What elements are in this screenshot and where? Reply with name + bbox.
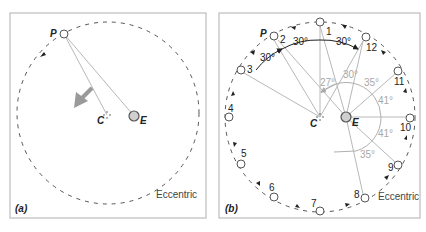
position-number: 10 xyxy=(400,122,412,133)
planet-position-6 xyxy=(270,193,278,201)
planet-position-9 xyxy=(394,161,402,169)
position-number: 7 xyxy=(311,198,317,209)
angle-label: 30° xyxy=(336,36,351,47)
angle-label: 35° xyxy=(364,77,379,88)
angle-label: 27° xyxy=(320,77,335,88)
position-number: 9 xyxy=(388,162,394,173)
planet-position-10 xyxy=(406,114,414,122)
position-number: 5 xyxy=(241,148,247,159)
planet-position-1 xyxy=(316,18,324,26)
panel-a: P C E Eccentric (a) xyxy=(10,13,206,218)
planet-position-7 xyxy=(316,207,324,215)
planet-position-5 xyxy=(237,160,245,168)
angle-label: 30° xyxy=(260,52,275,63)
angle-label: 35° xyxy=(360,149,375,160)
planet-label: P xyxy=(260,28,267,39)
planet-label: P xyxy=(50,28,57,39)
planet-icon xyxy=(60,30,68,38)
position-number: 12 xyxy=(366,42,378,53)
center-label: C xyxy=(97,115,105,126)
panel-label: (a) xyxy=(15,203,28,214)
position-number: 3 xyxy=(247,64,253,75)
planet-position-12 xyxy=(362,33,370,41)
planet-position-3 xyxy=(237,66,245,74)
position-number: 1 xyxy=(326,26,332,37)
earth-label: E xyxy=(140,115,147,126)
angle-label: 30° xyxy=(293,36,308,47)
position-number: 4 xyxy=(228,103,234,114)
panel-label: (b) xyxy=(225,203,238,214)
orbit-label: Eccentric xyxy=(378,191,419,202)
earth-label: E xyxy=(352,117,359,128)
planet-position-4 xyxy=(225,113,233,121)
panel-a-frame xyxy=(10,13,206,218)
angle-label: 41° xyxy=(378,128,393,139)
earth-icon xyxy=(341,112,351,122)
position-number: 11 xyxy=(394,76,405,87)
center-label: C xyxy=(310,118,318,129)
angle-label: 41° xyxy=(378,95,393,106)
panel-b: 30° 30° 30° 27° 30° 35° 41° 41° 35° xyxy=(219,13,420,218)
planet-position-11 xyxy=(394,67,402,75)
figure-canvas: P C E Eccentric (a) xyxy=(0,0,426,232)
position-number: 6 xyxy=(269,182,275,193)
angle-label: 30° xyxy=(343,69,358,80)
planet-position-2 xyxy=(270,32,278,40)
position-number: 2 xyxy=(280,34,286,45)
planet-position-8 xyxy=(361,194,369,202)
earth-icon xyxy=(129,111,139,121)
orbit-label: Eccentric xyxy=(156,189,197,200)
position-number: 8 xyxy=(354,189,360,200)
